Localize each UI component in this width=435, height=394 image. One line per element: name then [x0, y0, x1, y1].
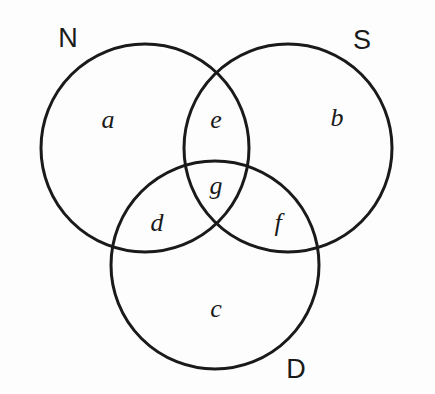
circle-s	[184, 44, 392, 252]
region-label-e: e	[210, 107, 222, 133]
region-label-a: a	[102, 107, 115, 133]
circle-n	[41, 44, 249, 252]
region-label-g: g	[210, 173, 223, 199]
venn-diagram: N S D a b c d e f g	[0, 0, 435, 394]
set-label-s: S	[353, 27, 371, 54]
region-label-b: b	[331, 105, 344, 131]
set-label-d: D	[286, 356, 306, 383]
set-label-n: N	[58, 25, 78, 52]
region-label-c: c	[210, 296, 222, 322]
region-label-f: f	[274, 210, 281, 236]
region-label-d: d	[151, 210, 164, 236]
